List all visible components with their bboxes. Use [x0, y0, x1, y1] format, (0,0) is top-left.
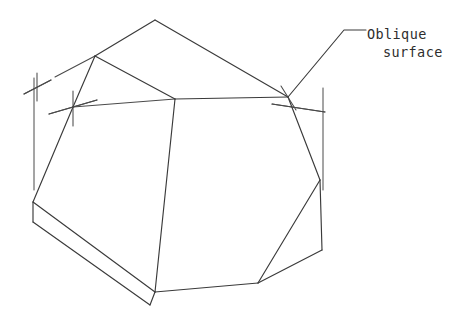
drawing-canvas: Oblique surface: [0, 0, 466, 314]
leader-line: [288, 30, 366, 97]
annotation-label: Oblique surface: [367, 26, 443, 60]
cross-marker-left: [24, 73, 51, 101]
oblique-surface-label-line-1: Oblique: [367, 26, 427, 42]
annotation-leader: [288, 30, 366, 97]
technical-drawing-svg: Oblique surface: [0, 0, 466, 314]
oblique-surface-label-line-2: surface: [383, 44, 443, 60]
solid-faces: [33, 20, 322, 305]
